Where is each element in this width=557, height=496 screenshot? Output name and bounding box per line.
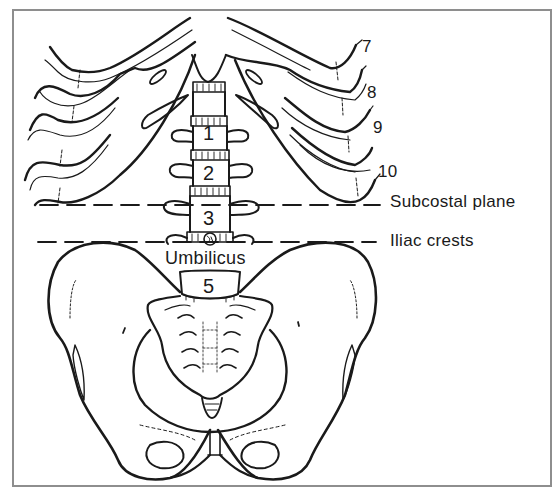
subcostal-plane-label: Subcostal plane bbox=[390, 193, 515, 210]
vertebra-label-l1: 1 bbox=[203, 123, 214, 143]
umbilicus-marker bbox=[204, 233, 216, 245]
rib-label-7: 7 bbox=[362, 38, 372, 55]
iliac-crests-label: Iliac crests bbox=[390, 232, 474, 249]
vertebra-label-l2: 2 bbox=[203, 163, 214, 183]
rib-label-8: 8 bbox=[367, 84, 377, 101]
umbilicus-label: Umbilicus bbox=[163, 249, 248, 267]
vertebra-label-l3: 3 bbox=[203, 208, 214, 228]
left-rib-cage bbox=[25, 18, 195, 205]
right-rib-cage bbox=[226, 18, 375, 202]
rib-label-10: 10 bbox=[378, 163, 398, 180]
vertebra-label-l5: 5 bbox=[203, 276, 214, 296]
rib-label-9: 9 bbox=[373, 119, 383, 136]
